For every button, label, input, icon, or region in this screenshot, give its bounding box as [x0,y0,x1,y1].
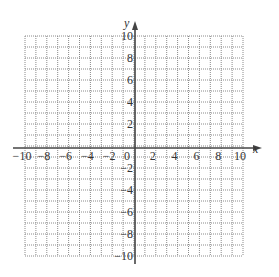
y-tick-label: −6 [120,205,133,219]
x-tick-label: −2 [103,149,116,163]
x-tick-label: −6 [59,149,72,163]
x-tick-label: 4 [172,149,178,163]
y-axis-label: y [123,16,130,30]
y-tick-label: −8 [120,227,133,241]
x-tick-label: 8 [215,149,221,163]
x-tick-label: −8 [37,149,50,163]
y-tick-label: 8 [127,51,133,65]
x-tick-label: −4 [81,149,94,163]
y-tick-label: 4 [127,95,133,109]
x-axis-label: x [252,142,259,156]
y-tick-label: 2 [127,117,133,131]
y-tick-label: −2 [120,161,133,175]
x-tick-label: 2 [150,149,156,163]
coordinate-plane: −10−8−6−4−20246810 108642−2−4−6−8−10 x y [0,0,279,277]
y-tick-label: −4 [120,183,133,197]
x-tick-label: −10 [13,149,32,163]
axes [13,21,262,264]
grid-lines [25,36,243,256]
y-tick-label: −10 [114,249,133,263]
x-tick-label: 6 [193,149,199,163]
y-tick-label: 10 [121,29,133,43]
y-tick-label: 6 [127,73,133,87]
x-tick-label: 10 [234,149,246,163]
